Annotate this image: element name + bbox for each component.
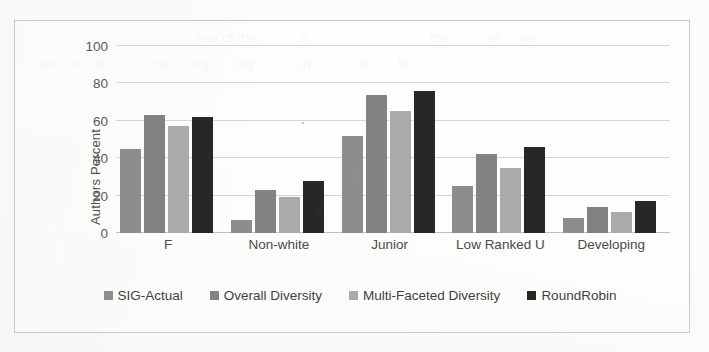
x-axis-label: Developing	[559, 237, 670, 252]
legend-swatch-icon	[349, 291, 358, 300]
x-axis-label: F	[116, 237, 227, 252]
bar	[452, 186, 473, 233]
y-axis-title: Authors Percent	[88, 128, 103, 224]
bar	[303, 181, 324, 233]
y-tick-label: 60	[93, 113, 108, 128]
y-tick-label: 0	[100, 226, 108, 241]
chart-legend: SIG-ActualOverall DiversityMulti-Faceted…	[60, 288, 660, 303]
bar-group	[448, 46, 559, 233]
y-tick-label: 20	[93, 188, 108, 203]
bar	[524, 147, 545, 233]
bar	[635, 201, 656, 233]
bar	[231, 220, 252, 233]
bar	[611, 212, 632, 233]
bar	[144, 115, 165, 233]
bar-groups	[116, 46, 670, 233]
legend-swatch-icon	[527, 291, 536, 300]
bar	[168, 126, 189, 233]
y-tick-label: 100	[85, 39, 108, 54]
chart-frame: Authors Percent 100806040200 FNon-whiteJ…	[14, 20, 690, 333]
x-axis-category-labels: FNon-whiteJuniorLow Ranked UDeveloping	[116, 237, 670, 252]
bar	[500, 168, 521, 233]
legend-swatch-icon	[210, 291, 219, 300]
bar	[476, 154, 497, 233]
legend-label: RoundRobin	[541, 288, 616, 303]
bar-group	[116, 46, 227, 233]
bar-group	[559, 46, 670, 233]
bar	[120, 149, 141, 233]
bar	[192, 117, 213, 233]
legend-label: Overall Diversity	[224, 288, 322, 303]
y-tick-label: 40	[93, 151, 108, 166]
bar	[414, 91, 435, 233]
legend-item[interactable]: Overall Diversity	[210, 288, 322, 303]
x-axis-label: Low Ranked U	[448, 237, 559, 252]
bar	[587, 207, 608, 233]
bar-group	[338, 46, 449, 233]
bar	[255, 190, 276, 233]
bar	[563, 218, 584, 233]
bar-group	[227, 46, 338, 233]
y-tick-label: 80	[93, 76, 108, 91]
bar	[279, 197, 300, 233]
legend-label: SIG-Actual	[118, 288, 183, 303]
legend-swatch-icon	[104, 291, 113, 300]
bar	[390, 111, 411, 233]
bar	[366, 95, 387, 233]
legend-item[interactable]: SIG-Actual	[104, 288, 183, 303]
legend-item[interactable]: RoundRobin	[527, 288, 616, 303]
legend-item[interactable]: Multi-Faceted Diversity	[349, 288, 500, 303]
bar	[342, 136, 363, 233]
x-axis-label: Non-white	[227, 237, 338, 252]
page-background: nce of theatheofheowrolinrovingagsprolin…	[0, 0, 709, 352]
x-axis-label: Junior	[338, 237, 449, 252]
legend-label: Multi-Faceted Diversity	[363, 288, 500, 303]
